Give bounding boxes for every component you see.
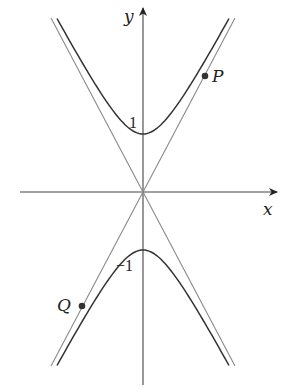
- point-q-marker: [79, 303, 86, 310]
- tick-label-minus-1: −1: [116, 257, 133, 274]
- tick-label-1: 1: [129, 114, 137, 131]
- point-p-label: P: [211, 66, 224, 86]
- y-axis-label: y: [123, 6, 134, 26]
- hyperbola-diagram: y x 1 −1 P Q: [0, 0, 301, 389]
- point-q-label: Q: [57, 295, 71, 315]
- point-p-marker: [202, 73, 209, 80]
- x-axis-label: x: [263, 199, 273, 219]
